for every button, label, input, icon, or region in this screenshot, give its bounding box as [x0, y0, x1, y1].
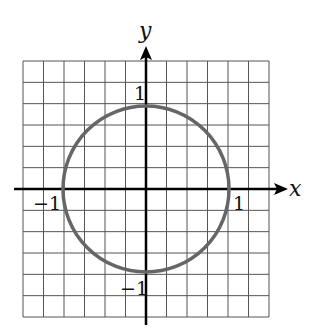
y-axis-label: y	[138, 18, 152, 43]
y-tick-1: 1	[134, 82, 146, 104]
y-tick-neg1: −1	[120, 277, 148, 299]
x-tick-neg1: −1	[33, 192, 61, 214]
x-tick-1: 1	[233, 192, 245, 214]
x-axis-label: x	[289, 176, 302, 201]
unit-circle-diagram: y x −1 1 1 −1	[0, 0, 315, 336]
